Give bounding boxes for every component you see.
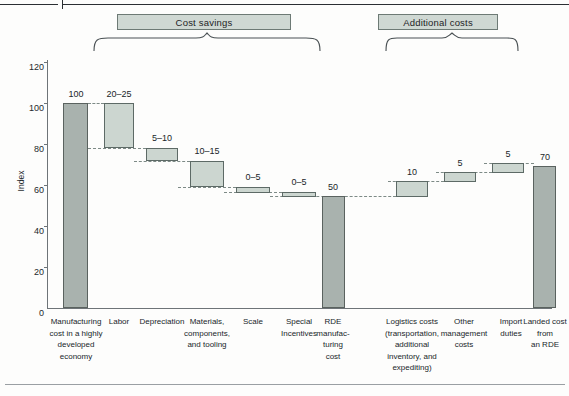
cat-line: from <box>515 328 569 340</box>
bar-logistics-costs[interactable] <box>396 181 428 197</box>
y-tick-mark <box>44 185 48 186</box>
cat-line: inventory, and <box>366 351 458 363</box>
cat-line: expediting) <box>366 362 458 374</box>
y-tick-mark <box>44 103 48 104</box>
cat-line: Other <box>432 316 496 328</box>
cat-line: an RDE <box>515 339 569 351</box>
bar-materials[interactable] <box>190 161 224 187</box>
connector <box>88 148 146 149</box>
value-label-rde-manufacturing-cost: 50 <box>315 182 351 192</box>
y-tick-mark <box>44 144 48 145</box>
value-label-scale: 0–5 <box>231 172 275 182</box>
y-tick-label: 100 <box>18 103 44 113</box>
cat-line: costs <box>432 339 496 351</box>
value-label-landed-cost: 70 <box>527 152 563 162</box>
y-tick-mark <box>44 62 48 63</box>
y-axis-title: Index <box>16 151 26 211</box>
value-label-logistics-costs: 10 <box>392 167 432 177</box>
cat-line: turing <box>307 339 359 351</box>
cat-line: components, <box>179 328 235 340</box>
category-label-landed-cost: Landed cost from an RDE <box>515 316 569 351</box>
cat-line: management <box>432 328 496 340</box>
x-axis <box>47 308 552 309</box>
value-label-import-duties: 5 <box>488 149 528 159</box>
y-tick-label: 40 <box>18 226 44 236</box>
connector <box>178 187 236 188</box>
bar-rde-manufacturing-cost[interactable] <box>322 196 345 308</box>
bar-labor[interactable] <box>104 103 134 148</box>
value-label-labor: 20–25 <box>97 89 141 99</box>
bar-depreciation[interactable] <box>146 148 178 161</box>
category-label-other-management: Other management costs <box>432 316 496 351</box>
cat-line: cost <box>307 351 359 363</box>
plot-area: Index 120 100 80 60 40 20 0 <box>0 0 569 396</box>
cat-line: and tooling <box>179 339 235 351</box>
cat-line: Landed cost <box>515 316 569 328</box>
bar-other-management[interactable] <box>444 172 476 182</box>
value-label-depreciation: 5–10 <box>140 133 184 143</box>
cat-line: RDE <box>307 316 359 328</box>
cat-line: manufac- <box>307 328 359 340</box>
bar-import-duties[interactable] <box>492 163 524 173</box>
y-tick-label: 60 <box>18 185 44 195</box>
connector <box>340 196 396 197</box>
connector <box>88 103 104 104</box>
bar-manufacturing-cost[interactable] <box>63 103 88 308</box>
cat-line: cost in a highly <box>40 328 112 340</box>
bar-scale[interactable] <box>236 187 270 193</box>
value-label-manufacturing-cost: 100 <box>58 89 94 99</box>
value-label-other-management: 5 <box>440 158 480 168</box>
value-label-materials: 10–15 <box>185 146 229 156</box>
y-tick-label: 20 <box>18 267 44 277</box>
y-tick-mark <box>44 267 48 268</box>
bar-landed-cost[interactable] <box>533 166 556 308</box>
figure-root: Cost savings Additional costs Index 120 … <box>0 0 569 396</box>
connector <box>134 161 190 162</box>
cat-line: developed <box>40 339 112 351</box>
y-tick-label: 120 <box>18 62 44 72</box>
bar-special-incentives[interactable] <box>282 192 316 197</box>
y-tick-mark <box>44 226 48 227</box>
y-tick-label: 80 <box>18 144 44 154</box>
category-label-rde-manufacturing-cost: RDE manufac- turing cost <box>307 316 359 362</box>
cat-line: economy <box>40 351 112 363</box>
